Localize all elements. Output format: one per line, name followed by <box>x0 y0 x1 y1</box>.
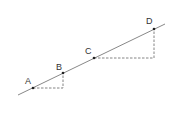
point-d-label: D <box>146 17 153 26</box>
point-a-label: A <box>25 77 31 86</box>
point-c-label: C <box>85 47 92 56</box>
point-b-label: B <box>56 63 62 72</box>
point-a-marker <box>32 87 35 90</box>
point-b-marker <box>62 72 65 75</box>
point-c-marker <box>93 57 96 60</box>
point-d-marker <box>153 28 156 31</box>
main-line <box>18 24 165 95</box>
